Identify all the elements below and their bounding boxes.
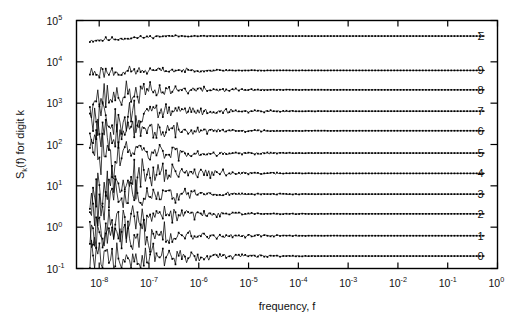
series-marker <box>213 70 215 72</box>
series-marker <box>282 152 284 154</box>
series-marker <box>320 130 322 132</box>
series-marker <box>273 193 275 195</box>
series-marker <box>143 37 145 39</box>
series-marker <box>463 255 465 257</box>
series-marker <box>159 36 161 38</box>
series-marker <box>156 252 158 254</box>
series-marker <box>197 127 199 129</box>
series-marker <box>187 192 189 194</box>
series-marker <box>422 70 424 72</box>
series-marker <box>381 152 383 154</box>
series-marker <box>333 35 335 37</box>
series-marker <box>137 146 139 148</box>
series-marker <box>267 172 269 174</box>
series-marker <box>301 35 303 37</box>
series-marker <box>447 35 449 37</box>
series-marker <box>194 153 196 155</box>
series-marker <box>229 235 231 237</box>
series-marker <box>343 152 345 154</box>
power-spectrum-chart: 10-810-710-610-510-410-310-210-110010510… <box>0 0 519 322</box>
series-marker <box>362 89 364 91</box>
series-marker <box>298 235 300 237</box>
series-marker <box>314 213 316 215</box>
series-marker <box>457 235 459 237</box>
series-marker <box>327 89 329 91</box>
series-marker <box>178 160 180 162</box>
series-marker <box>241 235 243 237</box>
series-marker <box>381 255 383 257</box>
series-marker <box>184 212 186 214</box>
series-marker <box>232 129 234 131</box>
series-marker <box>184 188 186 190</box>
series-marker <box>146 236 148 238</box>
series-marker <box>102 122 104 124</box>
series-marker <box>428 213 430 215</box>
series-marker <box>244 89 246 91</box>
series-marker <box>352 70 354 72</box>
series-marker <box>210 153 212 155</box>
series-marker <box>289 70 291 72</box>
series-marker <box>381 130 383 132</box>
series-marker <box>89 208 91 210</box>
series-marker <box>301 69 303 71</box>
series-marker <box>149 106 151 108</box>
series-marker <box>114 39 116 41</box>
series-marker <box>184 238 186 240</box>
series-marker <box>346 130 348 132</box>
series-marker <box>435 110 437 112</box>
series-digit-6: 6 <box>89 115 485 150</box>
series-marker <box>263 152 265 154</box>
series-marker <box>235 173 237 175</box>
series-marker <box>178 129 180 131</box>
series-marker <box>105 250 107 252</box>
series-marker <box>124 146 126 148</box>
series-marker <box>371 130 373 132</box>
series-marker <box>466 89 468 91</box>
series-marker <box>333 152 335 154</box>
series-marker <box>263 234 265 236</box>
series-marker <box>159 173 161 175</box>
series-marker <box>121 38 123 40</box>
series-marker <box>349 70 351 72</box>
series-marker <box>435 173 437 175</box>
series-marker <box>412 193 414 195</box>
series-marker <box>133 159 135 161</box>
series-marker <box>314 111 316 113</box>
series-marker <box>320 235 322 237</box>
series-marker <box>244 254 246 256</box>
series-marker <box>279 172 281 174</box>
series-marker <box>197 150 199 152</box>
series-marker <box>295 235 297 237</box>
series-marker <box>292 235 294 237</box>
series-digit-1: 1 <box>89 217 485 253</box>
series-digit-5: 5 <box>89 129 485 179</box>
x-tick-label-1: 10-7 <box>140 275 158 289</box>
series-marker <box>352 235 354 237</box>
series-marker <box>133 136 135 138</box>
series-marker <box>225 69 227 71</box>
series-marker <box>444 193 446 195</box>
series-marker <box>219 253 221 255</box>
series-digit-4: 4 <box>89 159 485 221</box>
series-marker <box>403 70 405 72</box>
series-marker <box>270 213 272 215</box>
series-marker <box>159 127 161 129</box>
series-marker <box>292 35 294 37</box>
series-marker <box>330 213 332 215</box>
series-marker <box>378 70 380 72</box>
series-marker <box>219 69 221 71</box>
series-marker <box>206 112 208 114</box>
series-marker <box>305 173 307 175</box>
series-marker <box>168 250 170 252</box>
series-marker <box>194 35 196 37</box>
series-marker <box>194 71 196 73</box>
series-marker <box>365 130 367 132</box>
series-marker <box>124 73 126 75</box>
series-marker <box>232 212 234 214</box>
series-marker <box>149 35 151 37</box>
series-marker <box>403 213 405 215</box>
series-marker <box>251 69 253 71</box>
series-label-digit-0: 0 <box>478 250 484 262</box>
series-marker <box>384 193 386 195</box>
series-label-digit-5: 5 <box>478 147 484 159</box>
